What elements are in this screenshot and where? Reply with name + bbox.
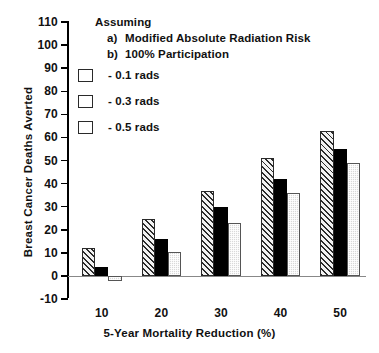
legend-label-2: - 0.5 rads bbox=[108, 121, 160, 133]
legend-item-0: - 0.1 rads bbox=[78, 66, 160, 84]
bar-50-0.5rads bbox=[347, 163, 360, 276]
bar-10-0.1rads bbox=[82, 248, 95, 276]
legend-item-2: - 0.5 rads bbox=[78, 118, 160, 136]
bar-10-0.5rads bbox=[108, 276, 121, 281]
bar-20-0.5rads bbox=[168, 252, 181, 276]
legend-swatch-icon-1 bbox=[78, 95, 93, 108]
legend-swatch-icon-2 bbox=[78, 121, 93, 134]
legend-item-1: - 0.3 rads bbox=[78, 92, 160, 110]
assumption-heading: Assuming bbox=[95, 14, 311, 30]
x-axis-label-10: 10 bbox=[77, 306, 127, 320]
x-axis-title: 5-Year Mortality Reduction (%) bbox=[0, 327, 379, 339]
bar-50-0.3rads bbox=[334, 149, 347, 276]
bar-30-0.3rads bbox=[214, 207, 227, 276]
x-axis-label-50: 50 bbox=[315, 306, 365, 320]
bar-40-0.1rads bbox=[261, 158, 274, 276]
bar-20-0.3rads bbox=[155, 239, 168, 276]
bar-30-0.1rads bbox=[201, 191, 214, 276]
chart-legend: - 0.1 rads - 0.3 rads - 0.5 rads bbox=[78, 66, 160, 144]
bar-40-0.5rads bbox=[287, 193, 300, 276]
bar-20-0.1rads bbox=[142, 219, 155, 276]
bar-50-0.1rads bbox=[320, 131, 333, 276]
assumption-text-a: Modified Absolute Radiation Risk bbox=[125, 30, 311, 46]
bar-40-0.3rads bbox=[274, 179, 287, 276]
bar-10-0.3rads bbox=[95, 267, 108, 276]
x-axis-label-30: 30 bbox=[196, 306, 246, 320]
legend-label-0: - 0.1 rads bbox=[108, 69, 160, 81]
x-axis-label-20: 20 bbox=[136, 306, 186, 320]
assumption-note: Assuming a) Modified Absolute Radiation … bbox=[95, 14, 311, 62]
bar-chart-figure: Breast Cancer Deaths Averted 11010090807… bbox=[0, 0, 379, 353]
legend-swatch-icon-0 bbox=[78, 69, 93, 82]
assumption-text-b: 100% Participation bbox=[125, 46, 229, 62]
legend-label-1: - 0.3 rads bbox=[108, 95, 160, 107]
assumption-marker-b: b) bbox=[107, 46, 125, 62]
assumption-item-a: a) Modified Absolute Radiation Risk bbox=[107, 30, 311, 46]
x-axis-label-40: 40 bbox=[256, 306, 306, 320]
bar-30-0.5rads bbox=[228, 223, 241, 276]
assumption-item-b: b) 100% Participation bbox=[107, 46, 311, 62]
assumption-marker-a: a) bbox=[107, 30, 125, 46]
